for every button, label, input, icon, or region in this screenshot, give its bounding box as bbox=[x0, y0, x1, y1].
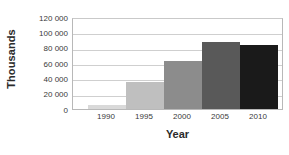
bar bbox=[126, 82, 164, 109]
bar bbox=[88, 105, 126, 109]
bar bbox=[164, 61, 202, 109]
y-axis-tick-label: 60 000 bbox=[44, 60, 68, 69]
y-axis-tick-label: 120 000 bbox=[39, 14, 68, 23]
y-axis-tick-label: 20 000 bbox=[44, 90, 68, 99]
y-axis-title-label: Thousands bbox=[5, 29, 17, 89]
x-axis-tick-labels: 19901995200020052010 bbox=[72, 112, 283, 124]
x-axis-tick-label: 1990 bbox=[87, 112, 125, 122]
plot-area bbox=[72, 18, 283, 110]
bar-chart: Thousands 020 00040 00060 00080 000100 0… bbox=[0, 0, 289, 155]
x-axis-tick-label: 2000 bbox=[163, 112, 201, 122]
x-axis-tick-label: 1995 bbox=[125, 112, 163, 122]
bar-series bbox=[73, 19, 282, 109]
x-axis-tick-label: 2010 bbox=[239, 112, 277, 122]
x-axis-tick-label: 2005 bbox=[201, 112, 239, 122]
y-axis-tick-label: 40 000 bbox=[44, 75, 68, 84]
bar bbox=[202, 42, 240, 109]
x-axis-title: Year bbox=[72, 128, 283, 140]
y-axis-tick-label: 0 bbox=[64, 106, 68, 115]
y-axis-tick-labels: 020 00040 00060 00080 000100 000120 000 bbox=[22, 12, 70, 116]
bar bbox=[240, 45, 278, 109]
y-axis-title: Thousands bbox=[0, 0, 22, 118]
y-axis-tick-label: 100 000 bbox=[39, 29, 68, 38]
y-axis-tick-label: 80 000 bbox=[44, 44, 68, 53]
